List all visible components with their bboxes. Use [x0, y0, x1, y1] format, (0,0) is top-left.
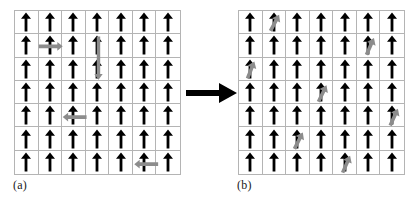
lattice-cell: [310, 104, 334, 127]
spin-up-arrow-icon: [20, 129, 32, 148]
spin-up-arrow-icon: [362, 106, 374, 125]
spin-up-arrow-icon: [339, 59, 351, 78]
lattice-cell: [133, 151, 157, 174]
lattice-cell: [39, 81, 63, 104]
spin-up-arrow-icon: [244, 36, 256, 55]
lattice-cell: [133, 58, 157, 81]
lattice-cell: [86, 104, 110, 127]
spin-up-arrow-icon: [291, 13, 303, 32]
spin-up-arrow-icon: [91, 82, 103, 101]
spin-up-arrow-icon: [362, 36, 374, 55]
spin-up-arrow-icon: [91, 13, 103, 32]
spin-up-arrow-icon: [138, 36, 150, 55]
lattice-cell: [156, 151, 180, 174]
lattice-cell: [286, 81, 310, 104]
lattice-cell: [380, 127, 404, 150]
figure-root: (a) (b): [0, 0, 415, 198]
spin-up-arrow-icon: [162, 13, 174, 32]
lattice-cell: [86, 11, 110, 34]
spin-up-arrow-icon: [339, 153, 351, 172]
lattice-cell: [333, 34, 357, 57]
spin-up-arrow-icon: [268, 36, 280, 55]
spin-up-arrow-icon: [91, 153, 103, 172]
lattice-cell: [109, 151, 133, 174]
lattice-cell: [310, 151, 334, 174]
lattice-cell: [380, 11, 404, 34]
spin-up-arrow-icon: [339, 129, 351, 148]
spin-up-arrow-icon: [315, 59, 327, 78]
lattice-cell: [333, 151, 357, 174]
panel-a: [14, 10, 181, 175]
spin-up-arrow-icon: [91, 36, 103, 55]
spin-up-arrow-icon: [138, 153, 150, 172]
spin-up-arrow-icon: [67, 59, 79, 78]
lattice-cell: [15, 34, 39, 57]
lattice-cell: [133, 11, 157, 34]
lattice-cell: [62, 34, 86, 57]
spin-up-arrow-icon: [268, 59, 280, 78]
lattice-cell: [263, 34, 287, 57]
spin-up-arrow-icon: [291, 153, 303, 172]
lattice-cell: [39, 151, 63, 174]
lattice-cell: [156, 81, 180, 104]
spin-up-arrow-icon: [115, 36, 127, 55]
lattice-cell: [109, 127, 133, 150]
spin-up-arrow-icon: [386, 82, 398, 101]
lattice-cell: [357, 58, 381, 81]
lattice-cell: [156, 58, 180, 81]
spin-up-arrow-icon: [162, 153, 174, 172]
lattice-cell: [263, 11, 287, 34]
lattice-cell: [357, 127, 381, 150]
lattice-cell: [357, 34, 381, 57]
lattice-cell: [239, 34, 263, 57]
lattice-cell: [39, 127, 63, 150]
panel-a-caption: (a): [13, 178, 27, 193]
spin-up-arrow-icon: [291, 59, 303, 78]
spin-up-arrow-icon: [386, 153, 398, 172]
lattice-cell: [86, 151, 110, 174]
lattice-cell: [109, 81, 133, 104]
lattice-cell: [62, 104, 86, 127]
lattice-cell: [310, 34, 334, 57]
spin-up-arrow-icon: [138, 106, 150, 125]
spin-up-arrow-icon: [244, 106, 256, 125]
lattice-cell: [62, 151, 86, 174]
lattice-cell: [263, 81, 287, 104]
spin-up-arrow-icon: [20, 36, 32, 55]
lattice-cell: [109, 104, 133, 127]
lattice-cell: [156, 127, 180, 150]
lattice-cell: [286, 104, 310, 127]
lattice-cell: [39, 34, 63, 57]
lattice-cell: [286, 58, 310, 81]
spin-up-arrow-icon: [91, 59, 103, 78]
spin-up-arrow-icon: [138, 13, 150, 32]
spin-up-arrow-icon: [162, 82, 174, 101]
spin-up-arrow-icon: [386, 36, 398, 55]
panel-b-caption: (b): [237, 178, 252, 193]
lattice-cell: [62, 127, 86, 150]
lattice-cell: [86, 127, 110, 150]
lattice-cell: [310, 81, 334, 104]
spin-up-arrow-icon: [44, 36, 56, 55]
spin-up-arrow-icon: [268, 153, 280, 172]
spin-up-arrow-icon: [315, 82, 327, 101]
spin-up-arrow-icon: [67, 153, 79, 172]
spin-up-arrow-icon: [67, 106, 79, 125]
spin-up-arrow-icon: [291, 129, 303, 148]
spin-up-arrow-icon: [244, 129, 256, 148]
spin-up-arrow-icon: [115, 13, 127, 32]
lattice-cell: [62, 11, 86, 34]
lattice-cell: [62, 58, 86, 81]
lattice-cell: [156, 104, 180, 127]
spin-up-arrow-icon: [20, 106, 32, 125]
spin-up-arrow-icon: [20, 13, 32, 32]
lattice-cell: [15, 81, 39, 104]
spin-up-arrow-icon: [115, 106, 127, 125]
lattice-cell: [239, 58, 263, 81]
spin-up-arrow-icon: [44, 106, 56, 125]
lattice-cell: [333, 127, 357, 150]
lattice-cell: [86, 81, 110, 104]
spin-up-arrow-icon: [362, 13, 374, 32]
lattice-cell: [263, 58, 287, 81]
spin-up-arrow-icon: [362, 129, 374, 148]
